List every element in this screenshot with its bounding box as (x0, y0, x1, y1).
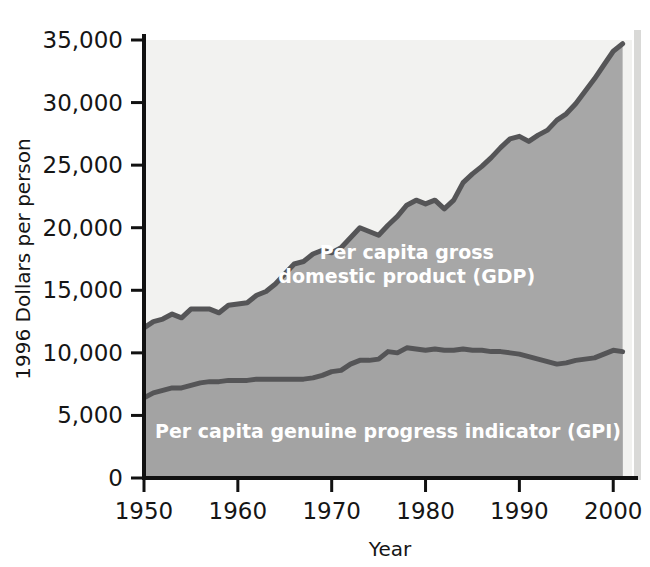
x-tick-label: 1950 (115, 498, 174, 524)
x-tick-label: 1980 (396, 498, 455, 524)
x-tick-label: 1970 (302, 498, 361, 524)
x-tick-label: 1990 (490, 498, 549, 524)
y-axis-title: 1996 Dollars per person (11, 138, 35, 379)
y-tick-label: 20,000 (43, 215, 123, 241)
gdp-gpi-area-chart: 05,00010,00015,00020,00025,00030,00035,0… (0, 0, 650, 567)
gdp-label-line: domestic product (GDP) (278, 265, 535, 287)
y-tick-label: 25,000 (43, 152, 123, 178)
x-axis-title: Year (368, 537, 412, 561)
y-tick-label: 10,000 (43, 340, 123, 366)
x-tick-label: 1960 (209, 498, 268, 524)
y-tick-label: 0 (108, 465, 123, 491)
chart-figure: 05,00010,00015,00020,00025,00030,00035,0… (0, 0, 650, 567)
y-tick-label: 35,000 (43, 27, 123, 53)
x-tick-label: 2000 (584, 498, 643, 524)
gpi-label: Per capita genuine progress indicator (G… (155, 420, 621, 442)
gpi-label-line: Per capita genuine progress indicator (G… (155, 420, 621, 442)
gdp-label-line: Per capita gross (320, 241, 494, 263)
x-axis-ticks (144, 478, 613, 492)
y-tick-label: 15,000 (43, 277, 123, 303)
page-edge-shadow (634, 30, 641, 480)
y-tick-label: 5,000 (57, 402, 123, 428)
y-tick-label: 30,000 (43, 90, 123, 116)
x-axis-tick-labels: 195019601970198019902000 (115, 498, 643, 524)
y-axis-tick-labels: 05,00010,00015,00020,00025,00030,00035,0… (43, 27, 123, 491)
